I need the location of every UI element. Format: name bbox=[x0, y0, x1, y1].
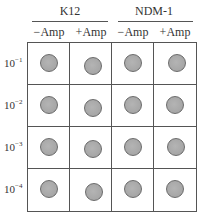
colony-spot bbox=[40, 96, 58, 114]
group-label-ndm1: NDM-1 bbox=[114, 4, 194, 19]
grid-cell bbox=[154, 43, 196, 85]
group-label-k12: K12 bbox=[30, 4, 110, 19]
grid-cell bbox=[112, 85, 154, 127]
grid-cell bbox=[28, 43, 70, 85]
grid-cell bbox=[28, 85, 70, 127]
spot-assay-grid bbox=[27, 42, 197, 212]
grid-cell bbox=[154, 169, 196, 211]
row-label-1: 10−1 bbox=[4, 56, 26, 69]
col-label-ndm1-plus-amp: +Amp bbox=[154, 25, 196, 40]
grid-cell bbox=[28, 127, 70, 169]
grid-cell bbox=[70, 127, 112, 169]
colony-spot bbox=[84, 57, 102, 75]
row-label-3: 10−3 bbox=[4, 140, 26, 153]
colony-spot bbox=[40, 180, 58, 198]
colony-spot bbox=[124, 180, 142, 198]
colony-spot bbox=[124, 54, 142, 72]
grid-cell bbox=[70, 169, 112, 211]
group-underline-k12 bbox=[32, 21, 108, 22]
row-label-4: 10−4 bbox=[4, 182, 26, 195]
row-label-2: 10−2 bbox=[4, 98, 26, 111]
grid-cell bbox=[154, 127, 196, 169]
colony-spot bbox=[124, 96, 142, 114]
group-underline-ndm1 bbox=[118, 21, 193, 22]
colony-spot bbox=[166, 180, 184, 198]
col-label-k12-plus-amp: +Amp bbox=[70, 25, 112, 40]
colony-spot bbox=[40, 138, 58, 156]
colony-spot bbox=[168, 54, 186, 72]
colony-spot bbox=[167, 138, 185, 156]
grid-cell bbox=[154, 85, 196, 127]
grid-cell bbox=[112, 127, 154, 169]
colony-spot bbox=[166, 96, 184, 114]
col-label-k12-minus-amp: −Amp bbox=[28, 25, 70, 40]
grid-cell bbox=[28, 169, 70, 211]
colony-spot bbox=[40, 54, 58, 72]
grid-cell bbox=[70, 85, 112, 127]
colony-spot bbox=[85, 183, 103, 201]
colony-spot bbox=[84, 140, 102, 158]
grid-cell bbox=[70, 43, 112, 85]
colony-spot bbox=[84, 99, 102, 117]
colony-spot bbox=[124, 138, 142, 156]
grid-cell bbox=[112, 43, 154, 85]
grid-cell bbox=[112, 169, 154, 211]
col-label-ndm1-minus-amp: −Amp bbox=[112, 25, 154, 40]
